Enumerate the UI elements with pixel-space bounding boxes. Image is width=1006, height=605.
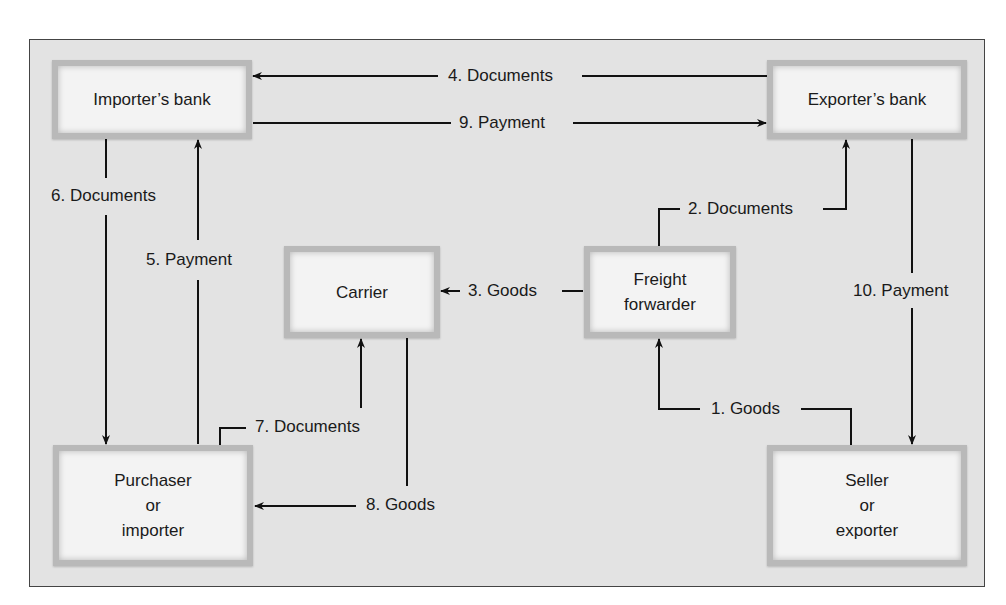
edge-label-1: 1. Goods xyxy=(711,399,780,419)
node-label-line: importer xyxy=(122,518,184,543)
edge-label-7: 7. Documents xyxy=(255,417,360,437)
edge-2-documents xyxy=(823,140,846,209)
node-label-line: or xyxy=(145,493,160,518)
node-label: Importer’s bank xyxy=(93,87,210,112)
node-label: Exporter’s bank xyxy=(808,87,926,112)
node-carrier: Carrier xyxy=(284,246,440,338)
node-label-line: or xyxy=(859,493,874,518)
edge-label-3: 3. Goods xyxy=(468,281,537,301)
node-seller-exporter: Seller or exporter xyxy=(767,445,967,566)
node-label-line: Seller xyxy=(845,468,888,493)
node-label: Carrier xyxy=(336,280,388,305)
node-label-line: Purchaser xyxy=(114,468,191,493)
node-purchaser-importer: Purchaser or importer xyxy=(53,445,253,566)
node-label-line: forwarder xyxy=(624,292,696,317)
edge-label-6: 6. Documents xyxy=(51,186,156,206)
node-label-line: exporter xyxy=(836,518,898,543)
node-label-line: Freight xyxy=(634,267,687,292)
edge-label-8: 8. Goods xyxy=(366,495,435,515)
node-importers-bank: Importer’s bank xyxy=(52,60,252,139)
edge-label-5: 5. Payment xyxy=(146,250,232,270)
edge-label-2: 2. Documents xyxy=(688,199,793,219)
edge-1-goods xyxy=(659,339,700,409)
edge-label-4: 4. Documents xyxy=(448,66,553,86)
edge-label-10: 10. Payment xyxy=(853,281,948,301)
edge-label-9: 9. Payment xyxy=(459,113,545,133)
node-exporters-bank: Exporter’s bank xyxy=(767,60,967,139)
node-freight-forwarder: Freight forwarder xyxy=(584,246,736,338)
